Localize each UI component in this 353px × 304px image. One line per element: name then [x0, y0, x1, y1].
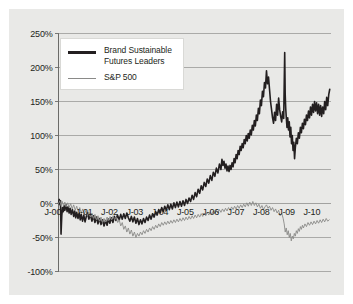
- chart-legend: Brand Sustainable Futures Leaders S&P 50…: [60, 38, 184, 90]
- x-tick-label: J-06: [202, 207, 219, 217]
- y-tick-label: 50%: [35, 165, 52, 175]
- x-tick-label: J-03: [126, 207, 143, 217]
- legend-label-secondary: S&P 500: [104, 72, 137, 83]
- legend-label-primary-line1: Brand Sustainable: [104, 45, 172, 55]
- x-tick-label: J-05: [177, 207, 194, 217]
- y-tick-label: 100%: [30, 131, 52, 141]
- x-tick-label: J-09: [278, 207, 295, 217]
- legend-item-sp-500: S&P 500: [68, 72, 137, 83]
- legend-label-primary-line2: Futures Leaders: [104, 56, 164, 66]
- x-tick-label: J-07: [228, 207, 245, 217]
- x-tick-label: J-01: [76, 207, 93, 217]
- y-tick-label: 150%: [30, 97, 52, 107]
- x-tick-label: J-02: [101, 207, 118, 217]
- y-tick-label: -100%: [27, 267, 52, 277]
- legend-label-primary: Brand Sustainable Futures Leaders: [104, 45, 172, 66]
- x-tick-label: J-00: [45, 207, 62, 217]
- y-tick-label: 200%: [30, 63, 52, 73]
- legend-item-brand-sustainable-futures-leaders: Brand Sustainable Futures Leaders: [68, 45, 172, 66]
- y-tick-label: 250%: [30, 29, 52, 39]
- chart-page: Brand Sustainable Futures Leaders S&P 50…: [0, 0, 353, 304]
- x-tick-label: J-08: [253, 207, 270, 217]
- x-tick-label: J-10: [304, 207, 321, 217]
- y-tick-label: -50%: [32, 233, 52, 243]
- x-tick-label: J-04: [152, 207, 169, 217]
